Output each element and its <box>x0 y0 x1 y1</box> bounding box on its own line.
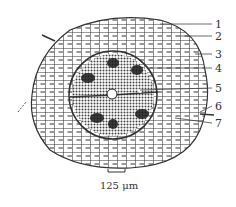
label-2: 2 <box>215 31 222 42</box>
label-5: 5 <box>215 83 222 94</box>
label-4: 4 <box>215 63 222 74</box>
cross-section-drawing <box>0 0 236 207</box>
label-7: 7 <box>215 118 222 129</box>
figure: 1 2 3 4 5 6 7 125 μm <box>0 0 236 207</box>
scale-bar <box>108 169 125 172</box>
scale-bar-label: 125 μm <box>95 180 143 191</box>
label-1: 1 <box>215 19 222 30</box>
label-6: 6 <box>215 101 222 112</box>
label-3: 3 <box>215 49 222 60</box>
central-cavity <box>107 89 117 99</box>
